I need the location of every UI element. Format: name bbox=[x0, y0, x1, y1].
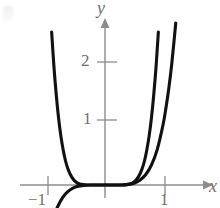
figure-canvas: y x 2 1 1 −1 bbox=[0, 0, 220, 208]
x-tick-label-1: 1 bbox=[160, 190, 169, 208]
y-axis-arrow bbox=[101, 18, 110, 28]
axes-group bbox=[20, 18, 213, 198]
x-tick-label-minus-1: −1 bbox=[28, 190, 46, 208]
ticks-group bbox=[48, 62, 165, 195]
y-axis-label: y bbox=[97, 0, 105, 19]
x-axis-label: x bbox=[209, 176, 217, 197]
y-tick-label-1: 1 bbox=[83, 109, 92, 129]
y-tick-label-2: 2 bbox=[81, 51, 90, 71]
graph-plot bbox=[0, 0, 220, 208]
